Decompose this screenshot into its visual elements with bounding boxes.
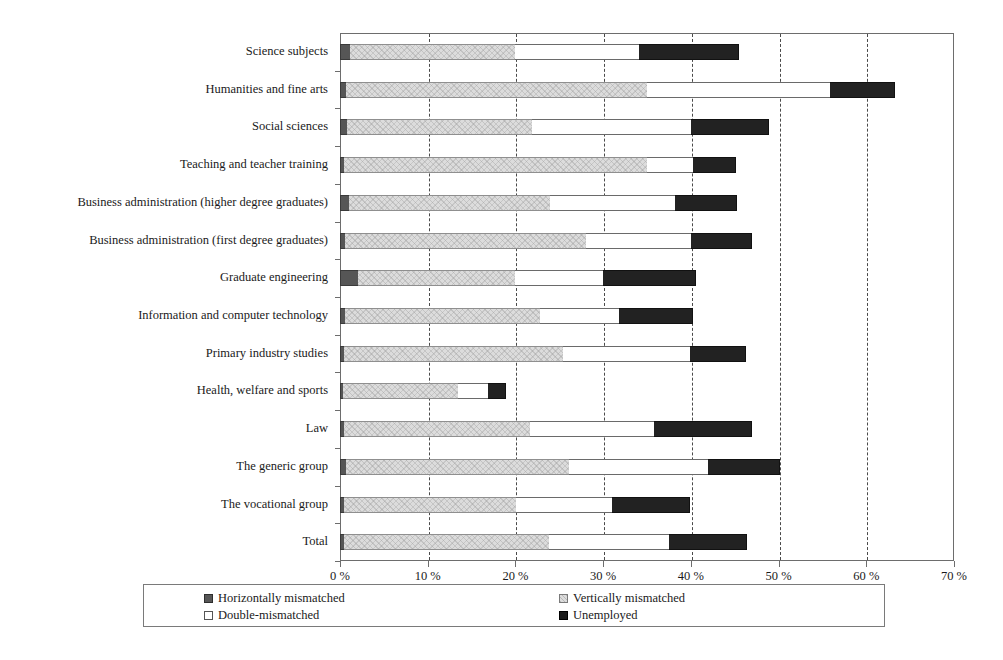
bar-rows (340, 33, 954, 561)
bar-row (340, 297, 954, 335)
stacked-bar-chart: Science subjectsHumanities and fine arts… (0, 0, 1003, 660)
category-label: Information and computer technology (138, 297, 328, 335)
bar-segment-vert (349, 195, 550, 211)
bar-segment-unemp (708, 459, 780, 475)
x-axis-label: 50 % (766, 569, 792, 584)
bar-segment-dbl (515, 270, 604, 286)
stacked-bar (340, 157, 736, 173)
bar-row (340, 523, 954, 561)
category-label: Total (302, 523, 328, 561)
bar-segment-dbl (515, 44, 640, 60)
bar-segment-vert (345, 233, 586, 249)
stacked-bar (340, 270, 696, 286)
stacked-bar (340, 459, 780, 475)
stacked-bar (340, 119, 769, 135)
bar-segment-vert (343, 383, 459, 399)
x-axis-tick (340, 561, 341, 567)
bar-segment-unemp (669, 534, 747, 550)
x-axis-tick (515, 561, 516, 567)
bar-row (340, 410, 954, 448)
category-label: Graduate engineering (220, 259, 328, 297)
legend-item: Horizontally mismatched (204, 591, 345, 606)
bar-segment-vert (358, 270, 514, 286)
bar-row (340, 184, 954, 222)
legend-swatch-unemp-icon (559, 611, 568, 620)
bar-segment-vert (344, 497, 516, 513)
legend-label: Unemployed (573, 608, 638, 623)
bar-segment-vert (344, 421, 531, 437)
bar-row (340, 146, 954, 184)
bar-segment-unemp (654, 421, 752, 437)
bar-segment-dbl (458, 383, 488, 399)
bar-segment-dbl (516, 497, 612, 513)
bar-segment-dbl (530, 421, 654, 437)
category-label: Law (306, 410, 328, 448)
legend-label: Horizontally mismatched (218, 591, 345, 606)
chart-legend: Horizontally mismatchedVertically mismat… (143, 584, 885, 627)
bar-row (340, 372, 954, 410)
x-axis-label: 30 % (590, 569, 616, 584)
legend-item: Vertically mismatched (559, 591, 685, 606)
x-axis-tick (954, 561, 955, 567)
bar-row (340, 33, 954, 71)
bar-segment-dbl (647, 82, 830, 98)
x-axis-label: 60 % (853, 569, 879, 584)
stacked-bar (340, 233, 752, 249)
stacked-bar (340, 308, 693, 324)
bar-row (340, 335, 954, 373)
bar-segment-vert (345, 308, 540, 324)
bar-segment-unemp (619, 308, 693, 324)
bar-row (340, 222, 954, 260)
bar-segment-dbl (549, 534, 669, 550)
category-label: Business administration (higher degree g… (77, 184, 328, 222)
legend-label: Vertically mismatched (573, 591, 685, 606)
category-label: Primary industry studies (206, 335, 328, 373)
bar-segment-unemp (488, 383, 506, 399)
x-axis-tick (428, 561, 429, 567)
bar-row (340, 486, 954, 524)
category-label: Business administration (first degree gr… (89, 222, 328, 260)
bar-row (340, 71, 954, 109)
legend-item: Double-mismatched (204, 608, 319, 623)
x-axis-tick (691, 561, 692, 567)
category-label: The vocational group (221, 486, 328, 524)
bar-row (340, 108, 954, 146)
x-axis-label: 40 % (678, 569, 704, 584)
bar-segment-dbl (586, 233, 690, 249)
bar-segment-vert (347, 119, 532, 135)
bar-segment-dbl (540, 308, 619, 324)
stacked-bar (340, 195, 737, 211)
stacked-bar (340, 497, 690, 513)
bar-row (340, 259, 954, 297)
bar-segment-unemp (675, 195, 737, 211)
legend-label: Double-mismatched (218, 608, 319, 623)
bar-segment-horiz (340, 195, 349, 211)
legend-item: Unemployed (559, 608, 638, 623)
category-label: Health, welfare and sports (197, 372, 328, 410)
bar-segment-dbl (647, 157, 693, 173)
x-axis-label: 0 % (330, 569, 350, 584)
bar-segment-unemp (603, 270, 696, 286)
bar-segment-unemp (639, 44, 739, 60)
bar-segment-unemp (612, 497, 690, 513)
stacked-bar (340, 82, 895, 98)
bar-row (340, 448, 954, 486)
x-axis-tick (603, 561, 604, 567)
x-axis-label: 70 % (941, 569, 967, 584)
stacked-bar (340, 421, 752, 437)
legend-swatch-dbl-icon (204, 611, 213, 620)
bar-segment-vert (350, 44, 515, 60)
bar-segment-vert (344, 157, 647, 173)
category-label: Humanities and fine arts (205, 71, 328, 109)
bar-segment-dbl (563, 346, 690, 362)
category-axis-labels: Science subjectsHumanities and fine arts… (0, 33, 336, 561)
bar-segment-horiz (340, 44, 350, 60)
x-axis-tick (866, 561, 867, 567)
category-label: The generic group (236, 448, 328, 486)
bar-segment-dbl (532, 119, 691, 135)
bar-segment-dbl (569, 459, 708, 475)
bar-segment-vert (346, 459, 569, 475)
x-axis-tick (779, 561, 780, 567)
bar-segment-unemp (693, 157, 736, 173)
bar-segment-dbl (550, 195, 675, 211)
